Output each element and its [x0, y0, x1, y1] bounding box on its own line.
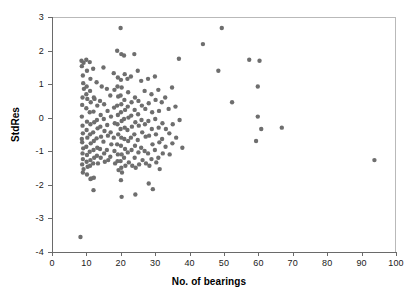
- x-axis-tick: [121, 252, 122, 256]
- data-point: [151, 187, 155, 191]
- data-point: [105, 109, 109, 113]
- data-point: [133, 144, 137, 148]
- data-point: [112, 71, 116, 75]
- data-point: [150, 127, 154, 131]
- data-point: [147, 164, 151, 168]
- data-point: [118, 26, 122, 30]
- data-point: [259, 127, 263, 131]
- data-point: [81, 157, 85, 161]
- data-point: [115, 122, 119, 126]
- data-point: [115, 84, 119, 88]
- data-point: [177, 57, 181, 61]
- data-point: [149, 92, 153, 96]
- data-point: [112, 135, 116, 139]
- data-point: [92, 176, 96, 180]
- data-point: [167, 131, 171, 135]
- data-point: [163, 95, 167, 99]
- x-axis-title: No. of bearings: [0, 276, 418, 287]
- data-point: [257, 59, 261, 63]
- data-point: [132, 156, 136, 160]
- data-point: [134, 166, 138, 170]
- x-axis-tick-label: 30: [150, 258, 160, 268]
- data-point: [137, 123, 141, 127]
- data-point: [108, 93, 112, 97]
- data-point: [201, 42, 205, 46]
- y-axis-tick-label: 1: [0, 79, 44, 89]
- data-point: [109, 114, 113, 118]
- x-axis-tick: [327, 252, 328, 256]
- data-point: [216, 69, 220, 73]
- data-point: [80, 137, 84, 141]
- data-point: [96, 161, 100, 165]
- data-point: [88, 150, 92, 154]
- data-point: [146, 119, 150, 123]
- data-point: [119, 110, 123, 114]
- data-point: [84, 92, 88, 96]
- data-point: [98, 147, 102, 151]
- data-point: [102, 117, 106, 121]
- data-point: [129, 100, 133, 104]
- data-point: [119, 178, 123, 182]
- data-point: [98, 99, 102, 103]
- data-point: [125, 128, 129, 132]
- data-point: [180, 146, 184, 150]
- data-point: [112, 149, 116, 153]
- data-point: [153, 74, 157, 78]
- data-point: [154, 160, 158, 164]
- x-axis-tick-label: 70: [288, 258, 298, 268]
- data-point: [136, 69, 140, 73]
- data-point: [101, 139, 105, 143]
- data-point: [80, 114, 84, 118]
- x-axis-tick-label: 60: [253, 258, 263, 268]
- data-point: [153, 98, 157, 102]
- data-point: [99, 113, 103, 117]
- data-point: [100, 84, 104, 88]
- x-axis-tick-label: 80: [322, 258, 332, 268]
- data-point: [126, 104, 130, 108]
- data-point: [84, 106, 88, 110]
- x-axis-tick: [293, 252, 294, 256]
- data-point: [88, 60, 92, 64]
- data-point: [108, 130, 112, 134]
- data-point: [150, 142, 154, 146]
- y-axis-title: StdRes: [10, 85, 21, 165]
- data-point: [85, 97, 89, 101]
- y-axis-tick-label: 0: [0, 113, 44, 123]
- data-point: [254, 139, 258, 143]
- data-point: [88, 89, 92, 93]
- data-point: [122, 137, 126, 141]
- data-point: [91, 109, 95, 113]
- data-point: [133, 120, 137, 124]
- data-point: [84, 128, 88, 132]
- data-point: [85, 172, 89, 176]
- data-point: [108, 155, 112, 159]
- data-point: [105, 148, 109, 152]
- y-axis-tick: [48, 218, 52, 219]
- data-point: [161, 151, 165, 155]
- y-axis-tick-label: -2: [0, 180, 44, 190]
- data-point: [91, 130, 95, 134]
- data-point: [80, 123, 84, 127]
- data-point: [122, 53, 126, 57]
- data-point: [122, 117, 126, 121]
- data-point: [91, 188, 95, 192]
- data-point: [136, 112, 140, 116]
- data-point: [136, 99, 140, 103]
- data-point: [80, 103, 84, 107]
- data-point: [139, 118, 143, 122]
- x-axis-tick: [258, 252, 259, 256]
- data-point: [132, 108, 136, 112]
- data-point: [167, 152, 171, 156]
- data-point: [247, 58, 251, 62]
- y-axis-tick-label: -4: [0, 247, 44, 257]
- data-point: [140, 158, 144, 162]
- data-point: [156, 156, 160, 160]
- data-point: [139, 146, 143, 150]
- data-point: [164, 127, 168, 131]
- data-point: [80, 151, 84, 155]
- data-point: [80, 95, 84, 99]
- data-point: [119, 78, 123, 82]
- data-point: [146, 77, 150, 81]
- y-axis-tick: [48, 84, 52, 85]
- data-point: [147, 101, 151, 105]
